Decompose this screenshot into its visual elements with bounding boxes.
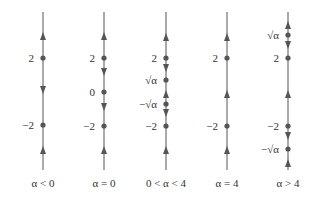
phase-line-diagram: 2−2α < 020−2α = 02√α−√α−20 < α < 42−2α =… — [0, 0, 315, 198]
equilibrium-label: 2 — [90, 52, 96, 64]
equilibrium-dot-icon — [101, 123, 106, 128]
case-caption: 0 < α < 4 — [146, 177, 187, 189]
equilibrium-dot-icon — [101, 55, 106, 60]
arrow-down-icon — [285, 132, 291, 140]
equilibrium-label: 2 — [274, 52, 280, 64]
equilibrium-label: 2 — [152, 52, 158, 64]
case-caption: α = 0 — [93, 177, 116, 189]
equilibrium-dot-icon — [163, 55, 168, 60]
arrow-down-icon — [101, 103, 107, 111]
phase-line-column: 20−2α = 0 — [83, 12, 116, 189]
equilibrium-dot-icon — [224, 123, 229, 128]
arrow-up-icon — [285, 21, 291, 29]
phase-line-column: 2−2α < 0 — [22, 12, 55, 189]
phase-line-column: 2√α−√α−20 < α < 4 — [139, 12, 187, 189]
equilibrium-label: −2 — [267, 120, 279, 132]
arrow-down-icon — [101, 68, 107, 76]
arrow-up-icon — [224, 90, 230, 98]
arrow-up-icon — [101, 32, 107, 40]
arrow-down-icon — [40, 86, 46, 94]
equilibrium-dot-icon — [163, 101, 168, 106]
equilibrium-label: 0 — [90, 86, 96, 98]
equilibrium-label: −2 — [22, 119, 34, 131]
equilibrium-label: 2 — [29, 52, 35, 64]
equilibrium-label: −√α — [261, 143, 279, 155]
arrow-up-icon — [224, 146, 230, 154]
equilibrium-dot-icon — [224, 55, 229, 60]
arrow-up-icon — [163, 90, 169, 98]
equilibrium-label: −2 — [206, 120, 218, 132]
case-caption: α = 4 — [216, 177, 239, 189]
equilibrium-label: −2 — [83, 120, 95, 132]
arrow-up-icon — [163, 33, 169, 41]
equilibrium-label: 2 — [213, 52, 219, 64]
arrow-down-icon — [285, 41, 291, 49]
equilibrium-dot-icon — [285, 55, 290, 60]
case-caption: α < 0 — [32, 177, 55, 189]
equilibrium-dot-icon — [101, 89, 106, 94]
equilibrium-dot-icon — [285, 146, 290, 151]
arrow-down-icon — [163, 64, 169, 72]
case-caption: α > 4 — [277, 177, 300, 189]
arrow-down-icon — [163, 109, 169, 117]
equilibrium-dot-icon — [40, 55, 45, 60]
arrow-up-icon — [101, 146, 107, 154]
equilibrium-label: √α — [145, 74, 157, 86]
arrow-up-icon — [285, 159, 291, 167]
equilibrium-dot-icon — [163, 123, 168, 128]
equilibrium-label: √α — [267, 29, 279, 41]
equilibrium-label: −2 — [145, 120, 157, 132]
phase-line-column: √α2−2−√αα > 4 — [261, 12, 300, 189]
arrow-up-icon — [40, 146, 46, 154]
equilibrium-dot-icon — [163, 77, 168, 82]
phase-line-column: 2−2α = 4 — [206, 12, 239, 189]
arrow-up-icon — [163, 146, 169, 154]
equilibrium-dot-icon — [285, 32, 290, 37]
equilibrium-dot-icon — [40, 122, 45, 127]
equilibrium-dot-icon — [285, 123, 290, 128]
equilibrium-label: −√α — [139, 98, 157, 110]
arrow-up-icon — [40, 32, 46, 40]
arrow-up-icon — [285, 90, 291, 98]
arrow-up-icon — [224, 33, 230, 41]
